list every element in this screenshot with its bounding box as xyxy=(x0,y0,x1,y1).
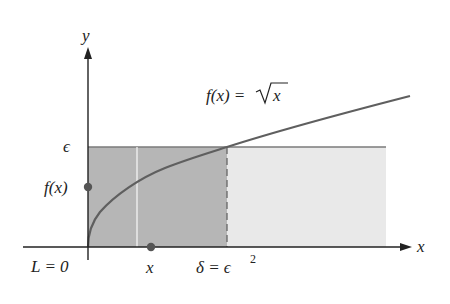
x-point-label: x xyxy=(145,258,154,277)
fx-point xyxy=(84,183,92,191)
limit-diagram: y x ϵ f(x) L = 0 x δ = ϵ 2 f(x) = x xyxy=(0,0,450,304)
L-label: L = 0 xyxy=(30,257,69,276)
delta-exponent: 2 xyxy=(250,252,256,266)
epsilon-label: ϵ xyxy=(63,137,71,156)
delta-label: δ = ϵ xyxy=(196,258,232,277)
delta-region xyxy=(88,147,227,247)
y-axis-arrow-icon xyxy=(84,47,92,59)
function-label-radicand: x xyxy=(272,86,281,105)
function-label: f(x) = xyxy=(206,86,245,105)
y-axis-label: y xyxy=(80,26,90,45)
x-axis-arrow-icon xyxy=(400,243,412,251)
fx-label: f(x) xyxy=(44,178,68,197)
x-axis-label: x xyxy=(416,237,425,256)
light-region xyxy=(227,147,386,247)
sqrt-radical-icon xyxy=(256,83,288,103)
x-point xyxy=(147,243,155,251)
